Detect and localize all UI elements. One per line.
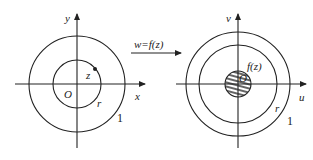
point-z-label: z [85,69,91,81]
hatched-image-region [222,68,254,100]
u-axis-label: u [299,91,305,103]
v-axis-label: v [226,12,231,24]
origin-label-w: O [239,72,247,84]
conformal-map-diagram: y x O z r 1 w=f(z) v u O f(z) r 1 [0,0,313,160]
unit-radius-label-w: 1 [287,114,293,128]
origin-label: O [64,88,72,100]
x-axis-label: x [134,90,140,102]
mapping-label: w=f(z) [134,38,164,51]
radius-r-label-w: r [275,102,280,114]
z-plane: y x O z r 1 [15,12,145,148]
mapping-arrow: w=f(z) [131,38,181,53]
unit-radius-label: 1 [117,111,123,125]
image-fz-label: f(z) [247,60,262,73]
radius-r-label: r [97,97,102,109]
point-z [93,67,97,71]
y-axis-label: y [64,12,70,24]
w-plane: v u O f(z) r 1 [176,12,306,148]
